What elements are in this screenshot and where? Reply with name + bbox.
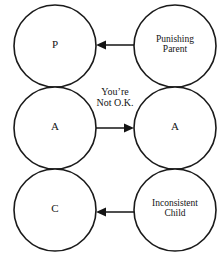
edge-label-line1: You’re xyxy=(75,86,155,97)
arrow-top-head xyxy=(96,41,106,50)
arrow-bottom-head xyxy=(96,208,106,217)
arrow-middle xyxy=(96,124,134,133)
label-punishing-parent-line1: Punishing xyxy=(133,34,217,44)
edge-label-line2: Not O.K. xyxy=(75,97,155,108)
label-inconsistent-child-line1: Inconsistent xyxy=(131,198,219,208)
ego-state-diagram: P A C Punishing Parent A Inconsistent Ch… xyxy=(0,0,224,264)
label-adult: A xyxy=(15,121,95,133)
label-punishing-parent: Punishing Parent xyxy=(133,34,217,55)
label-inconsistent-child: Inconsistent Child xyxy=(131,198,219,219)
label-adult-right: A xyxy=(135,121,215,133)
label-inconsistent-child-line2: Child xyxy=(131,208,219,218)
label-child: C xyxy=(15,203,95,215)
arrow-middle-head xyxy=(124,124,134,133)
edge-label-youre-not-ok: You’re Not O.K. xyxy=(75,86,155,108)
label-parent: P xyxy=(15,39,95,51)
arrow-bottom xyxy=(96,208,134,217)
label-punishing-parent-line2: Parent xyxy=(133,44,217,54)
arrow-top xyxy=(96,41,134,50)
